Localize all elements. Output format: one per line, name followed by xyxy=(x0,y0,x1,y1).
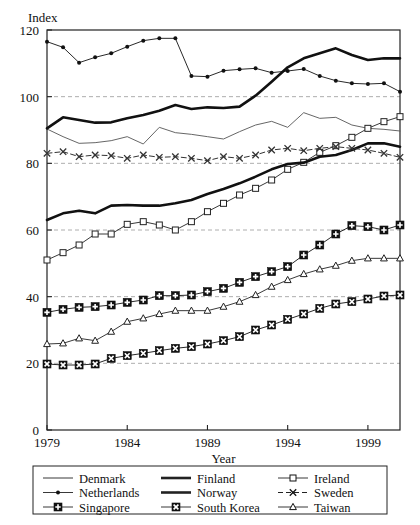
marker-open-square xyxy=(365,125,371,131)
xtick-label-1979: 1979 xyxy=(34,435,60,450)
y-axis-title: Index xyxy=(28,10,58,25)
marker-open-square xyxy=(76,242,82,248)
chart-figure: 02040608010012019791984198919941999Index… xyxy=(0,0,420,525)
legend-label: Finland xyxy=(197,472,236,486)
series-markers xyxy=(44,143,403,163)
legend-label: Taiwan xyxy=(314,501,351,515)
series-norway xyxy=(47,143,400,220)
marker-filled-dot xyxy=(77,61,81,65)
marker-filled-dot xyxy=(109,51,113,55)
legend-label: Denmark xyxy=(79,472,126,486)
marker-open-triangle xyxy=(365,255,372,261)
ytick-label-100: 100 xyxy=(20,90,40,105)
marker-filled-dot xyxy=(173,36,177,40)
legend-label: Ireland xyxy=(314,472,350,486)
xtick-label-1984: 1984 xyxy=(114,435,141,450)
marker-open-square xyxy=(381,119,387,125)
series-line xyxy=(47,143,400,220)
marker-open-square xyxy=(221,200,227,206)
marker-open-square xyxy=(290,475,296,481)
marker-open-square xyxy=(92,231,98,237)
marker-open-square xyxy=(333,143,339,149)
marker-open-square xyxy=(124,221,130,227)
marker-filled-dot xyxy=(350,81,354,85)
series-line xyxy=(47,225,400,312)
marker-filled-dot xyxy=(270,71,274,75)
ytick-label-40: 40 xyxy=(26,290,39,305)
marker-open-triangle xyxy=(397,255,404,261)
series-markers xyxy=(45,36,402,93)
series-line xyxy=(47,147,400,161)
legend-label: Sweden xyxy=(314,486,354,500)
marker-open-triangle xyxy=(188,307,195,313)
marker-filled-dot xyxy=(302,67,306,71)
ytick-label-120: 120 xyxy=(20,23,40,38)
marker-open-square xyxy=(285,166,291,172)
marker-open-square xyxy=(349,134,355,140)
series-line xyxy=(47,38,400,91)
series-line xyxy=(47,48,400,128)
marker-filled-dot xyxy=(61,45,65,49)
marker-filled-dot xyxy=(141,39,145,43)
series-line xyxy=(47,258,400,344)
marker-cross-x xyxy=(60,148,66,154)
marker-filled-dot xyxy=(254,66,258,70)
legend-label: Singapore xyxy=(79,501,130,515)
marker-filled-dot xyxy=(56,491,60,495)
marker-filled-dot xyxy=(398,90,402,94)
marker-open-triangle xyxy=(108,328,115,334)
legend-label: Norway xyxy=(197,486,238,500)
chart-canvas: 02040608010012019791984198919941999Index… xyxy=(0,0,420,525)
marker-filled-dot xyxy=(157,36,161,40)
marker-filled-dot xyxy=(222,69,226,73)
x-axis-title: Year xyxy=(212,451,237,466)
marker-open-triangle xyxy=(381,255,388,261)
marker-open-square xyxy=(188,219,194,225)
marker-open-triangle xyxy=(76,335,83,341)
plot-frame: 02040608010012019791984198919941999 xyxy=(20,23,401,450)
marker-open-triangle xyxy=(172,307,179,313)
marker-filled-dot xyxy=(334,79,338,83)
marker-open-square xyxy=(44,257,50,263)
series-netherlands xyxy=(45,36,402,93)
series-finland xyxy=(47,48,400,128)
marker-open-square xyxy=(204,209,210,215)
xtick-label-1989: 1989 xyxy=(194,435,220,450)
xtick-label-1999: 1999 xyxy=(355,435,381,450)
marker-filled-dot xyxy=(318,74,322,78)
marker-filled-dot xyxy=(286,69,290,73)
marker-filled-dot xyxy=(366,82,370,86)
marker-filled-dot xyxy=(238,67,242,71)
series-denmark xyxy=(47,113,400,144)
data-series-group xyxy=(43,36,404,369)
marker-open-square xyxy=(156,222,162,228)
marker-filled-dot xyxy=(125,45,129,49)
marker-filled-dot xyxy=(45,40,49,44)
marker-filled-dot xyxy=(93,55,97,59)
marker-open-square xyxy=(60,250,66,256)
legend-label: South Korea xyxy=(197,501,260,515)
legend: DenmarkFinlandIrelandNetherlandsNorwaySw… xyxy=(33,466,387,515)
marker-open-square xyxy=(253,185,259,191)
legend-label: Netherlands xyxy=(79,486,140,500)
marker-open-square xyxy=(237,192,243,198)
series-line xyxy=(47,113,400,144)
marker-open-square xyxy=(172,227,178,233)
grid-lines xyxy=(47,97,400,364)
xtick-label-1994: 1994 xyxy=(275,435,302,450)
marker-open-square xyxy=(397,114,403,120)
series-sweden xyxy=(44,143,403,163)
marker-filled-dot xyxy=(205,75,209,79)
marker-open-triangle xyxy=(252,291,259,297)
marker-open-square xyxy=(140,219,146,225)
marker-filled-dot xyxy=(189,74,193,78)
ytick-label-20: 20 xyxy=(26,356,39,371)
marker-open-square xyxy=(269,177,275,183)
marker-cross-x xyxy=(268,147,274,153)
ytick-label-80: 80 xyxy=(26,156,39,171)
marker-open-square xyxy=(108,231,114,237)
ytick-label-60: 60 xyxy=(26,223,39,238)
marker-filled-dot xyxy=(382,81,386,85)
